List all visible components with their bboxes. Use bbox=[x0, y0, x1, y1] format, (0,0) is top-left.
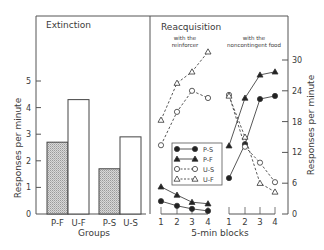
subtitle-noncontingent-2: noncontingent food bbox=[227, 42, 281, 49]
series-u-s-marker bbox=[272, 180, 277, 185]
chart-plot-area: 0123450612182430P-FU-FP-SU-S12341234P-SP… bbox=[26, 49, 302, 228]
reacquisition-title: Reacquisition bbox=[161, 22, 221, 32]
series-u-s-marker bbox=[257, 160, 262, 165]
legend-label: P-S bbox=[203, 146, 213, 154]
series-p-f-marker bbox=[174, 192, 180, 197]
left-tick-label: 2 bbox=[26, 157, 31, 166]
legend-u-s-marker bbox=[192, 166, 197, 171]
x-tick-label: 3 bbox=[257, 217, 262, 227]
right-tick-label: 6 bbox=[292, 179, 297, 188]
series-u-s-marker bbox=[158, 143, 163, 148]
subtitle-reinforcer-1: with the bbox=[174, 35, 197, 41]
bar-category-label: P-S bbox=[103, 218, 116, 228]
bar-u-s bbox=[120, 137, 141, 214]
series-p-s-marker bbox=[158, 199, 163, 204]
x-tick-label: 1 bbox=[158, 217, 163, 227]
series-p-s-marker bbox=[189, 206, 194, 211]
right-tick-label: 12 bbox=[292, 148, 302, 157]
series-p-f-marker bbox=[226, 143, 232, 148]
right-tick-label: 24 bbox=[292, 87, 302, 96]
series-p-f-marker bbox=[242, 95, 248, 100]
series-u-s-line bbox=[161, 91, 208, 145]
series-p-f-marker bbox=[272, 69, 278, 74]
bar-category-label: U-S bbox=[123, 218, 138, 228]
right-tick-label: 18 bbox=[292, 118, 302, 127]
x-tick-label: 3 bbox=[189, 217, 194, 227]
series-u-f-marker bbox=[205, 49, 211, 54]
series-u-f-marker bbox=[158, 117, 164, 122]
left-y-axis-label: Responses per minute bbox=[13, 97, 23, 198]
left-tick-label: 1 bbox=[26, 183, 31, 192]
series-p-s-marker bbox=[257, 96, 262, 101]
left-tick-label: 0 bbox=[26, 210, 31, 219]
series-u-f-marker bbox=[189, 69, 195, 74]
legend-label: U-S bbox=[203, 166, 214, 174]
x-tick-label: 1 bbox=[226, 217, 231, 227]
series-p-s-marker bbox=[272, 93, 277, 98]
legend-u-s-marker bbox=[174, 166, 179, 171]
series-u-s-marker bbox=[242, 144, 247, 149]
left-tick-label: 4 bbox=[26, 104, 31, 113]
bar-category-label: U-F bbox=[71, 218, 85, 228]
left-tick-label: 3 bbox=[26, 130, 31, 139]
blocks-x-label: 5-min blocks bbox=[191, 228, 249, 238]
legend-label: P-F bbox=[203, 156, 213, 164]
right-tick-label: 30 bbox=[292, 56, 302, 65]
extinction-title: Extinction bbox=[46, 20, 91, 30]
series-u-s-marker bbox=[189, 88, 194, 93]
series-u-f-marker bbox=[272, 189, 278, 194]
x-tick-label: 4 bbox=[205, 217, 210, 227]
series-u-s-marker bbox=[174, 109, 179, 114]
bar-p-f bbox=[47, 142, 68, 214]
series-p-f-line bbox=[229, 72, 275, 146]
legend-label: U-F bbox=[203, 176, 214, 184]
groups-x-label: Groups bbox=[78, 228, 110, 238]
series-u-f-marker bbox=[174, 80, 180, 85]
bar-u-f bbox=[68, 100, 89, 214]
subtitle-reinforcer-2: reinforcer bbox=[172, 42, 199, 48]
bar-p-s bbox=[99, 169, 120, 214]
series-u-f-marker bbox=[257, 180, 263, 185]
x-tick-label: 2 bbox=[242, 217, 247, 227]
series-u-f-line bbox=[229, 96, 275, 192]
series-p-f-line bbox=[161, 187, 208, 204]
series-u-s-line bbox=[229, 95, 275, 182]
x-tick-label: 4 bbox=[272, 217, 277, 227]
series-p-s-line bbox=[229, 96, 275, 178]
x-tick-label: 2 bbox=[174, 217, 179, 227]
bar-category-label: P-F bbox=[51, 218, 64, 228]
right-y-axis-label: Responses per minute bbox=[306, 74, 316, 175]
series-p-s-marker bbox=[174, 203, 179, 208]
series-u-s-marker bbox=[205, 95, 210, 100]
left-tick-label: 5 bbox=[26, 77, 31, 86]
series-p-f-marker bbox=[189, 199, 195, 204]
series-u-f-line bbox=[161, 52, 208, 120]
series-p-s-marker bbox=[226, 175, 231, 180]
series-p-s-marker bbox=[205, 208, 210, 213]
right-tick-label: 0 bbox=[292, 210, 297, 219]
subtitle-noncontingent-1: with the bbox=[243, 35, 266, 41]
legend-p-s-marker bbox=[192, 146, 197, 151]
chart-canvas: Extinction Reacquisition with the reinfo… bbox=[0, 0, 324, 250]
legend-p-s-marker bbox=[174, 146, 179, 151]
series-p-f-marker bbox=[158, 184, 164, 189]
